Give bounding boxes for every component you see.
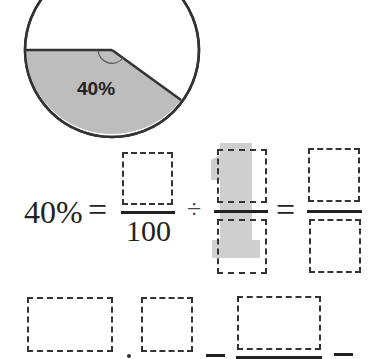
divide-sign: ÷ (187, 195, 201, 225)
fraction3-bar (307, 210, 362, 213)
equals-sign: = (88, 191, 107, 229)
eq2-box-3[interactable] (237, 296, 321, 350)
fraction3-denominator-box[interactable] (309, 219, 361, 273)
fraction2-bar (214, 210, 268, 213)
eq2-equals-top-2 (334, 353, 353, 356)
fraction3-numerator-box[interactable] (308, 148, 360, 202)
pie-label: 40% (77, 78, 115, 100)
fraction1-numerator-box[interactable] (122, 152, 173, 205)
eq2-operator-dot (127, 354, 131, 358)
fraction2-numerator-box[interactable] (217, 149, 267, 203)
fraction2-denominator-box[interactable] (217, 219, 267, 274)
eq2-box-1[interactable] (27, 297, 113, 352)
equals-sign-2: = (276, 191, 295, 229)
fraction1-denominator: 100 (126, 214, 171, 248)
eq2-equals-top (206, 354, 225, 357)
eq2-box-2[interactable] (141, 297, 193, 352)
lhs-percent: 40% (24, 194, 83, 231)
